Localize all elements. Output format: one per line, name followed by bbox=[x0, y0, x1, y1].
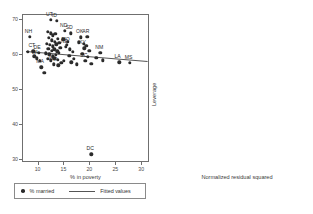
axis-tick-mark bbox=[141, 162, 142, 165]
data-point-label: WI bbox=[32, 50, 38, 56]
axis-tick-label: 50 bbox=[2, 86, 18, 92]
data-point-label: KY bbox=[79, 40, 86, 46]
leverage-residual-panel: .2.15.1.050 0.2.4.6 MSLANMDC Normalized … bbox=[158, 0, 313, 214]
legend-line-label: Fitted values bbox=[100, 188, 131, 194]
axis-tick-label: .1 bbox=[311, 89, 313, 95]
axis-tick-label: 0 bbox=[311, 156, 313, 162]
legend-marker-label: % married bbox=[30, 188, 55, 194]
data-point-label: MA bbox=[36, 59, 44, 65]
axis-tick-label: 70 bbox=[2, 16, 18, 22]
axis-tick-mark bbox=[19, 54, 22, 55]
axis-tick-mark bbox=[19, 19, 22, 20]
legend-marker-icon bbox=[21, 189, 25, 193]
data-point-label: IA bbox=[53, 57, 58, 63]
data-point-label: NH bbox=[25, 29, 32, 35]
axis-tick-mark bbox=[19, 89, 22, 90]
legend-line-icon bbox=[69, 191, 95, 192]
data-point-label: AR bbox=[82, 29, 89, 35]
legend: % married Fitted values bbox=[14, 183, 146, 199]
axis-tick-label: 10 bbox=[29, 166, 47, 172]
axis-tick-label: 40 bbox=[2, 121, 18, 127]
axis-tick-label: 60 bbox=[2, 51, 18, 57]
data-point-label: ID bbox=[52, 13, 57, 19]
axis-tick-label: 30 bbox=[132, 166, 150, 172]
axis-tick-label: .05 bbox=[311, 123, 313, 129]
axis-tick-mark bbox=[89, 162, 90, 165]
data-point-label: MO bbox=[62, 37, 70, 43]
axis-tick-label: 15 bbox=[54, 166, 72, 172]
figure-root: 7060504030 1015202530 NHCTDEWIMAUTIDINIA… bbox=[0, 0, 313, 214]
axis-tick-label: 20 bbox=[80, 166, 98, 172]
data-point-label: LA bbox=[114, 54, 120, 60]
axis-tick-label: 25 bbox=[106, 166, 124, 172]
axis-tick-mark bbox=[115, 162, 116, 165]
axis-tick-mark bbox=[63, 162, 64, 165]
data-point-label: SC bbox=[80, 53, 87, 59]
right-y-axis-title: Leverage bbox=[151, 83, 157, 106]
scatter-panel-poverty-married: 7060504030 1015202530 NHCTDEWIMAUTIDINIA… bbox=[0, 0, 158, 214]
left-x-axis-title: % in poverty bbox=[22, 174, 149, 180]
data-point-label: SD bbox=[66, 25, 73, 31]
axis-tick-mark bbox=[19, 159, 22, 160]
data-point-label: NM bbox=[95, 45, 103, 51]
data-point-label: DC bbox=[86, 146, 93, 152]
axis-tick-mark bbox=[19, 124, 22, 125]
axis-tick-label: .2 bbox=[311, 21, 313, 27]
axis-tick-mark bbox=[38, 162, 39, 165]
right-x-axis-title: Normalized residual squared bbox=[173, 174, 301, 180]
data-point-label: MS bbox=[125, 55, 133, 61]
axis-tick-label: .15 bbox=[311, 55, 313, 61]
axis-tick-label: 30 bbox=[2, 156, 18, 162]
